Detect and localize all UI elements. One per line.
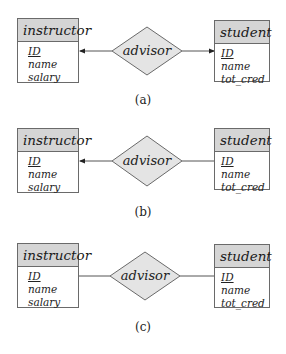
attribute-primary-key: ID xyxy=(221,271,269,284)
diagram-c: advisor instructor ID name salary studen… xyxy=(0,225,286,340)
relationship-label: advisor xyxy=(112,43,182,59)
caption: (b) xyxy=(0,205,286,219)
attribute: tot_cred xyxy=(221,297,269,310)
entity-title: student xyxy=(215,245,269,268)
caption: (a) xyxy=(0,93,286,107)
entity-student: student ID name tot_cred xyxy=(214,20,270,82)
attribute: tot_cred xyxy=(221,181,269,194)
attribute: name xyxy=(28,58,78,71)
attribute: tot_cred xyxy=(221,73,269,86)
attribute: name xyxy=(28,168,78,181)
attribute: name xyxy=(221,60,269,73)
attribute: name xyxy=(28,283,78,296)
relationship-label: advisor xyxy=(110,268,180,284)
entity-title: instructor xyxy=(18,19,78,42)
attribute: salary xyxy=(28,296,78,309)
attribute-primary-key: ID xyxy=(221,155,269,168)
entity-instructor: instructor ID name salary xyxy=(17,18,79,83)
attribute-primary-key: ID xyxy=(28,155,78,168)
attribute: name xyxy=(221,168,269,181)
entity-student: student ID name tot_cred xyxy=(214,244,270,308)
diagram-a: advisor instructor ID name salary studen… xyxy=(0,0,286,115)
attribute: salary xyxy=(28,71,78,84)
entity-title: student xyxy=(215,129,269,152)
attribute: name xyxy=(221,284,269,297)
arrowhead-left-icon xyxy=(79,49,85,54)
entity-instructor: instructor ID name salary xyxy=(17,128,79,193)
relationship-label: advisor xyxy=(112,153,182,169)
attribute-primary-key: ID xyxy=(28,45,78,58)
attribute: salary xyxy=(28,181,78,194)
entity-title: student xyxy=(215,21,269,44)
diagram-b: advisor instructor ID name salary studen… xyxy=(0,110,286,225)
entity-title: instructor xyxy=(18,244,78,267)
entity-instructor: instructor ID name salary xyxy=(17,243,79,308)
attribute-primary-key: ID xyxy=(221,47,269,60)
arrowhead-left-icon xyxy=(79,159,85,164)
entity-title: instructor xyxy=(18,129,78,152)
caption: (c) xyxy=(0,320,286,334)
entity-student: student ID name tot_cred xyxy=(214,128,270,190)
attribute-primary-key: ID xyxy=(28,270,78,283)
